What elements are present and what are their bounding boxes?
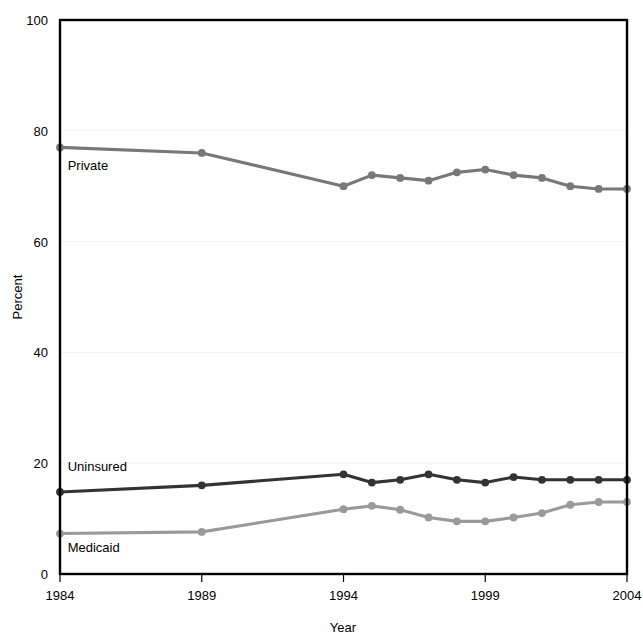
data-point-uninsured-1994	[340, 470, 348, 478]
y-tick-label-20: 20	[34, 456, 48, 471]
plot-area-border	[60, 20, 627, 574]
data-point-private-1998	[453, 168, 461, 176]
data-point-medicaid-1997	[425, 514, 433, 522]
data-point-medicaid-2000	[510, 514, 518, 522]
data-point-medicaid-2001	[538, 509, 546, 517]
data-point-medicaid-1996	[396, 506, 404, 514]
data-point-medicaid-1989	[198, 528, 206, 536]
data-point-uninsured-2003	[595, 476, 603, 484]
data-point-private-2001	[538, 174, 546, 182]
x-axis-ticks	[60, 575, 627, 582]
y-tick-label-0: 0	[41, 567, 48, 582]
y-tick-label-40: 40	[34, 345, 48, 360]
y-tick-label-100: 100	[26, 13, 48, 28]
data-point-uninsured-1998	[453, 476, 461, 484]
x-tick-label-1984: 1984	[46, 588, 75, 603]
data-point-uninsured-1995	[368, 479, 376, 487]
x-axis-tick-labels: 19841989199419992004	[46, 588, 642, 603]
data-point-uninsured-2002	[566, 476, 574, 484]
data-point-uninsured-2000	[510, 473, 518, 481]
series-label-medicaid: Medicaid	[68, 540, 120, 555]
data-point-medicaid-1998	[453, 517, 461, 525]
data-point-private-2002	[566, 182, 574, 190]
gridlines	[61, 20, 626, 463]
data-point-private-1989	[198, 149, 206, 157]
line-chart: 19841989199419992004 020406080100 Privat…	[0, 0, 643, 641]
data-point-uninsured-1997	[425, 470, 433, 478]
data-point-medicaid-2002	[566, 501, 574, 509]
y-tick-label-80: 80	[34, 124, 48, 139]
data-point-private-1994	[340, 182, 348, 190]
data-point-medicaid-1994	[340, 505, 348, 513]
x-tick-label-1999: 1999	[471, 588, 500, 603]
data-point-uninsured-2001	[538, 476, 546, 484]
y-axis-tick-labels: 020406080100	[26, 13, 48, 582]
data-point-uninsured-1999	[481, 479, 489, 487]
data-point-private-1997	[425, 177, 433, 185]
data-point-medicaid-2003	[595, 498, 603, 506]
data-point-medicaid-1995	[368, 502, 376, 510]
series-group	[56, 144, 631, 538]
data-point-private-2000	[510, 171, 518, 179]
y-tick-label-60: 60	[34, 235, 48, 250]
y-axis-title: Percent	[10, 274, 25, 319]
series-label-uninsured: Uninsured	[68, 459, 127, 474]
data-point-private-1999	[481, 166, 489, 174]
data-point-medicaid-1999	[481, 517, 489, 525]
data-point-private-2003	[595, 185, 603, 193]
x-tick-label-1994: 1994	[329, 588, 358, 603]
x-tick-label-2004: 2004	[613, 588, 642, 603]
chart-container: 19841989199419992004 020406080100 Privat…	[0, 0, 643, 641]
data-point-private-1995	[368, 171, 376, 179]
x-tick-label-1989: 1989	[187, 588, 216, 603]
series-label-private: Private	[68, 158, 108, 173]
data-point-private-1996	[396, 174, 404, 182]
data-point-uninsured-1996	[396, 476, 404, 484]
data-point-uninsured-1989	[198, 481, 206, 489]
x-axis-title: Year	[330, 620, 357, 635]
series-inline-labels: PrivateUninsuredMedicaid	[68, 158, 127, 555]
